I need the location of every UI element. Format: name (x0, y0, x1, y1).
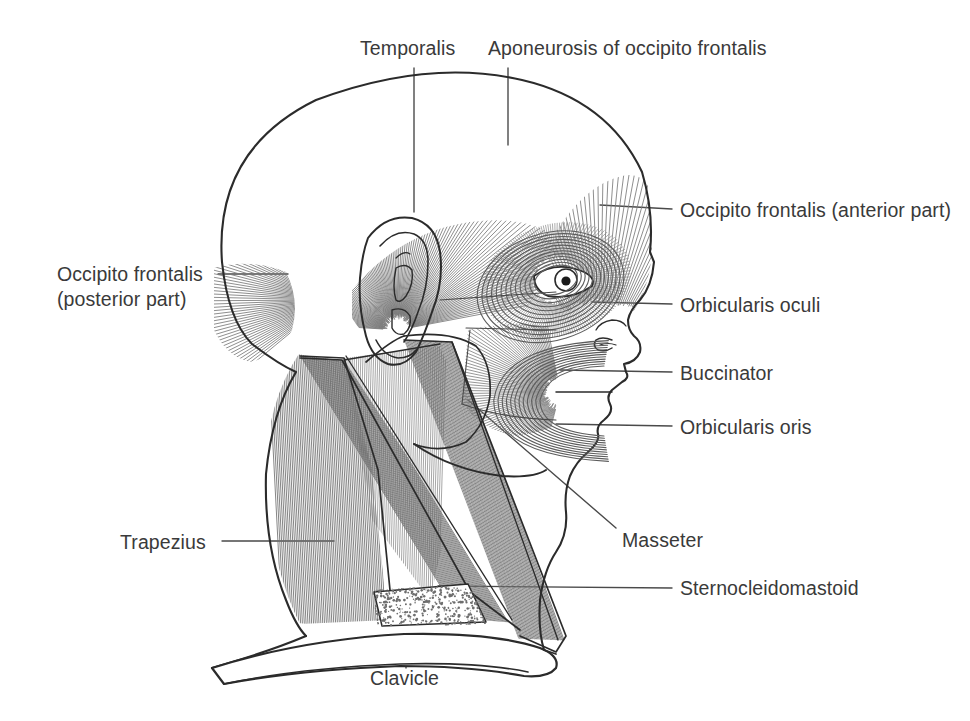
label-occipito-frontalis-posterior: Occipito frontalis (posterior part) (57, 262, 247, 312)
anatomy-figure: Temporalis Aponeurosis of occipito front… (0, 0, 970, 721)
label-aponeurosis-of-occipito-frontalis: Aponeurosis of occipito frontalis (488, 36, 767, 61)
anatomy-illustration (0, 0, 970, 721)
label-clavicle: Clavicle (370, 666, 439, 691)
label-temporalis: Temporalis (360, 36, 455, 61)
label-orbicularis-oris: Orbicularis oris (680, 415, 812, 440)
label-trapezius: Trapezius (120, 530, 206, 555)
nostril-crease (600, 344, 616, 346)
label-occipito-frontalis-anterior: Occipito frontalis (anterior part) (680, 198, 951, 223)
label-occipito-frontalis-posterior-line2: (posterior part) (57, 288, 186, 310)
label-buccinator: Buccinator (680, 361, 773, 386)
label-orbicularis-oculi: Orbicularis oculi (680, 293, 820, 318)
label-masseter: Masseter (622, 528, 703, 553)
pupil (561, 276, 570, 285)
nose-ala-crease (596, 320, 626, 330)
label-occipito-frontalis-posterior-line1: Occipito frontalis (57, 263, 203, 285)
orbicularis-oris-rings (494, 341, 609, 462)
leader-buccinator (560, 370, 672, 372)
scm-clavicular-attachment (374, 584, 486, 626)
leader-orbicularis-oris (556, 424, 672, 426)
label-sternocleidomastoid: Sternocleidomastoid (680, 576, 859, 601)
